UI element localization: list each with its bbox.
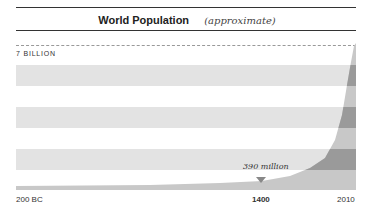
x-label-200bc: 200 BC	[16, 195, 43, 204]
x-label-2010: 2010	[337, 195, 355, 204]
annotation-390-million: 390 million	[243, 162, 289, 171]
population-plot	[0, 0, 374, 207]
x-label-1400: 1400	[252, 195, 270, 204]
background-bands	[16, 65, 356, 170]
